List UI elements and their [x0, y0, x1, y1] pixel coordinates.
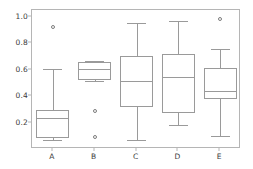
whisker-lower-e: [220, 99, 221, 137]
plot-area: [31, 9, 240, 148]
cap-upper-e: [211, 49, 230, 50]
box-d: [162, 54, 195, 112]
cap-upper-d: [169, 21, 188, 22]
x-tick-mark-d: [177, 148, 178, 151]
x-tick-label-e: E: [217, 152, 222, 161]
y-tick-label-1.0: 1.0: [15, 11, 28, 20]
x-tick-label-c: C: [133, 152, 138, 161]
cap-lower-a: [43, 140, 62, 141]
whisker-lower-c: [137, 107, 138, 140]
outlier-a-1: [51, 25, 55, 29]
x-tick-mark-c: [135, 148, 136, 151]
median-d: [162, 77, 195, 78]
y-tick-label-0.6: 0.6: [15, 64, 28, 73]
box-e: [204, 68, 237, 98]
box-b: [78, 62, 111, 80]
cap-lower-d: [169, 125, 188, 126]
box-a: [36, 110, 69, 138]
whisker-upper-a: [53, 69, 54, 110]
x-tick-label-d: D: [174, 152, 180, 161]
median-c: [120, 81, 153, 82]
cap-upper-a: [43, 69, 62, 70]
outlier-b-1: [93, 109, 97, 113]
boxplot-figure: 0.20.40.60.81.0 ABCDE: [0, 0, 253, 169]
x-tick-mark-e: [219, 148, 220, 151]
cap-lower-c: [127, 140, 146, 141]
x-tick-mark-b: [93, 148, 94, 151]
y-tick-label-0.2: 0.2: [15, 117, 28, 126]
whisker-upper-e: [220, 49, 221, 68]
outlier-b-2: [93, 135, 97, 139]
x-tick-mark-a: [51, 148, 52, 151]
cap-upper-c: [127, 23, 146, 24]
median-e: [204, 91, 237, 92]
cap-lower-e: [211, 136, 230, 137]
median-b: [78, 69, 111, 70]
whisker-upper-d: [178, 21, 179, 54]
outlier-e-1: [218, 17, 222, 21]
x-tick-label-b: B: [91, 152, 96, 161]
x-tick-label-a: A: [49, 152, 54, 161]
cap-lower-b: [85, 81, 104, 82]
y-tick-label-0.4: 0.4: [15, 91, 28, 100]
whisker-lower-d: [178, 113, 179, 125]
box-layer: [32, 10, 239, 147]
whisker-upper-c: [137, 23, 138, 57]
y-tick-label-0.8: 0.8: [15, 38, 28, 47]
median-a: [36, 118, 69, 119]
y-axis: 0.20.40.60.81.0: [0, 0, 28, 169]
